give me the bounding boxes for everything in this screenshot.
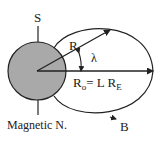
latitude-label: λ bbox=[91, 52, 97, 64]
south-pole-label: S bbox=[34, 11, 41, 24]
latitude-angle-arc bbox=[79, 53, 81, 71]
dipole-field-diagram: S R λ Ro= L RE B Magnetic N. bbox=[0, 0, 163, 141]
r0-equation: = L R bbox=[86, 75, 116, 90]
north-pole-label: Magnetic N. bbox=[7, 119, 67, 131]
field-label: B bbox=[120, 120, 129, 133]
radius-label: R bbox=[69, 39, 78, 52]
re-subscript: E bbox=[116, 82, 122, 92]
field-direction-arrow-icon bbox=[110, 117, 116, 119]
equatorial-radius-label: Ro= L RE bbox=[73, 76, 122, 92]
r0-symbol: R bbox=[73, 75, 82, 90]
